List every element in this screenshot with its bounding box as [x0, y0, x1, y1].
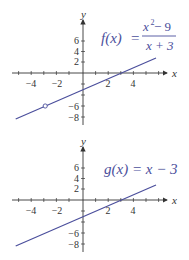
x-tick-label: −2	[52, 78, 63, 89]
y-axis-label: y	[80, 135, 86, 147]
x-axis-label: x	[171, 67, 177, 79]
y-tick-label: −8	[68, 239, 79, 250]
y-tick-label: −8	[68, 112, 79, 123]
g-formula: g(x) = x − 3	[104, 161, 178, 178]
svg-text:f(x): f(x)	[101, 30, 122, 47]
function-graphs: −4 −2 2 4 6 4 2 −6 −8 x y f(x) = x 2 − 9…	[0, 0, 189, 260]
svg-text:x: x	[142, 19, 149, 34]
y-tick-label: −6	[68, 101, 79, 112]
x-tick-label: 4	[131, 78, 136, 89]
graph-f: −4 −2 2 4 6 4 2 −6 −8 x y f(x) = x 2 − 9…	[12, 8, 177, 125]
svg-text:x + 3: x + 3	[145, 38, 174, 53]
graph-g: −4 −2 2 4 6 4 2 −6 −8 x y g(x) = x − 3	[12, 135, 178, 252]
y-tick-label: 6	[74, 35, 79, 46]
x-tick-label: −4	[26, 78, 37, 89]
y-tick-label: 4	[74, 173, 79, 184]
x-tick-label: −2	[52, 205, 63, 216]
x-tick-label: 4	[131, 205, 136, 216]
x-tick-label: −4	[26, 205, 37, 216]
y-tick-label: 6	[74, 162, 79, 173]
y-axis-label: y	[80, 8, 86, 20]
y-tick-label: 2	[74, 56, 79, 67]
y-tick-label: 2	[74, 183, 79, 194]
y-tick-label: −6	[68, 228, 79, 239]
svg-text:− 9: − 9	[154, 19, 171, 34]
svg-text:=: =	[131, 30, 139, 46]
y-tick-label: 4	[74, 46, 79, 57]
f-formula: f(x) = x 2 − 9 x + 3	[101, 18, 176, 53]
x-axis-label: x	[171, 194, 177, 206]
hole-marker	[43, 104, 47, 108]
